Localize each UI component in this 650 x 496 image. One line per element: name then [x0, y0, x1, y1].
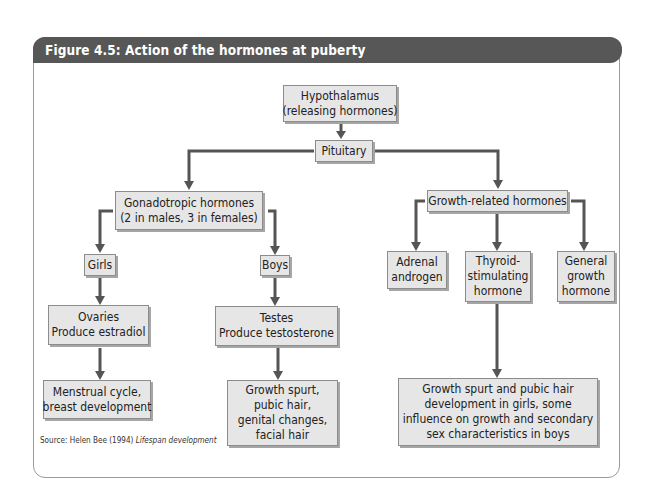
source-prefix: Source: Helen Bee (1994) [40, 434, 133, 445]
node-growth-effects: Growth spurt and pubic hair development … [398, 378, 598, 446]
node-thyroid: Thyroid- stimulating hormone [465, 251, 531, 302]
node-line: facial hair [256, 428, 309, 443]
node-line: stimulating [468, 269, 529, 284]
node-line: (releasing hormones) [282, 104, 397, 119]
node-line: Hypothalamus [301, 89, 379, 104]
node-line: Produce estradiol [52, 325, 146, 340]
node-line: influence on growth and secondary [403, 412, 594, 427]
node-line: Boys [262, 258, 288, 273]
node-line: Menstrual cycle, [53, 385, 141, 400]
node-line: Ovaries [78, 310, 119, 325]
node-line: sex characteristics in boys [426, 427, 569, 442]
node-gonadotropic: Gonadotropic hormones (2 in males, 3 in … [115, 191, 263, 230]
node-pituitary: Pituitary [315, 140, 373, 162]
node-line: General [565, 254, 608, 269]
node-line: Growth spurt and pubic hair [422, 382, 573, 397]
node-line: Girls [88, 258, 112, 273]
node-line: growth [567, 269, 605, 284]
node-line: breast development [43, 400, 152, 415]
node-girls: Girls [84, 254, 116, 276]
node-line: Gonadotropic hormones [124, 196, 254, 211]
node-line: hormone [474, 284, 522, 299]
source-citation: Source: Helen Bee (1994) Lifespan develo… [40, 434, 217, 445]
node-line: Growth-related hormones [428, 194, 566, 209]
node-line: Testes [260, 311, 293, 326]
node-line: Adrenal [396, 255, 437, 270]
node-menstrual: Menstrual cycle, breast development [43, 380, 151, 419]
node-line: genital changes, [238, 413, 327, 428]
node-growth-related: Growth-related hormones [427, 190, 568, 212]
node-line: Produce testosterone [219, 326, 334, 341]
node-general-growth: General growth hormone [557, 251, 615, 302]
node-line: Pituitary [322, 144, 367, 159]
node-line: Thyroid- [476, 254, 520, 269]
node-line: development in girls, some [424, 397, 571, 412]
node-hypothalamus: Hypothalamus (releasing hormones) [283, 85, 397, 122]
node-line: Growth spurt, [246, 383, 320, 398]
node-line: androgen [391, 270, 442, 285]
node-boys-effects: Growth spurt, pubic hair, genital change… [227, 380, 338, 446]
node-ovaries: Ovaries Produce estradiol [48, 305, 149, 345]
node-line: (2 in males, 3 in females) [120, 211, 258, 226]
node-line: pubic hair, [254, 398, 311, 413]
node-line: hormone [562, 284, 610, 299]
node-testes: Testes Produce testosterone [215, 306, 338, 346]
node-adrenal: Adrenal androgen [387, 251, 447, 289]
source-work: Lifespan development [136, 434, 217, 445]
node-boys: Boys [260, 255, 290, 276]
